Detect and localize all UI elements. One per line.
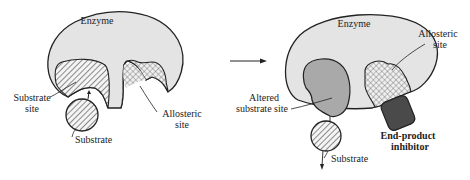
substrate-site-label: Substrate bbox=[13, 92, 51, 103]
allosteric-site-label-right-2: site bbox=[433, 39, 447, 50]
inhibitor-label: End-product bbox=[381, 130, 437, 141]
allosteric-site-label-right: Allosteric bbox=[418, 28, 458, 39]
altered-site-label-2: substrate site bbox=[236, 103, 288, 114]
substrate-molecule-right bbox=[311, 121, 341, 151]
left-panel: Enzyme Substrate site Substrate Alloster… bbox=[13, 12, 202, 145]
substrate-molecule-left bbox=[66, 99, 98, 131]
allosteric-site-label-left-2: site bbox=[175, 119, 189, 130]
release-arrow bbox=[322, 150, 323, 166]
inhibitor-label-2: inhibitor bbox=[391, 141, 429, 152]
enzyme-label-left: Enzyme bbox=[81, 15, 114, 26]
allosteric-inhibition-diagram: Enzyme Substrate site Substrate Alloster… bbox=[0, 0, 470, 180]
allosteric-site-label-left: Allosteric bbox=[162, 108, 202, 119]
substrate-label-left: Substrate bbox=[75, 134, 113, 145]
enzyme-label-right: Enzyme bbox=[338, 18, 371, 29]
altered-substrate-site bbox=[303, 59, 350, 117]
right-panel: Enzyme Allosteric site Altered substrate… bbox=[236, 15, 458, 170]
substrate-site-label-2: site bbox=[25, 103, 39, 114]
right-arrow-icon bbox=[230, 59, 267, 64]
substrate-label-right: Substrate bbox=[331, 153, 369, 164]
altered-site-label: Altered bbox=[249, 92, 279, 103]
